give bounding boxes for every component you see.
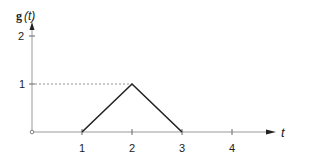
x-tick-label-1: 1: [79, 142, 85, 154]
x-tick-label-4: 4: [229, 142, 235, 154]
y-axis-title: g(t): [16, 9, 35, 23]
series-g-of-t: [82, 84, 182, 132]
y-axis-arrow-icon: [30, 22, 35, 30]
origin-marker: [30, 130, 34, 134]
y-tick-label-1: 1: [19, 78, 25, 90]
x-tick-label-3: 3: [179, 142, 185, 154]
x-tick-label-2: 2: [129, 142, 135, 154]
y-tick-label-2: 2: [18, 30, 24, 42]
x-axis-label: t: [281, 125, 286, 140]
chart: g(t) t 2 1 1 2 3 4: [0, 0, 312, 160]
x-axis-arrow-icon: [266, 130, 276, 135]
